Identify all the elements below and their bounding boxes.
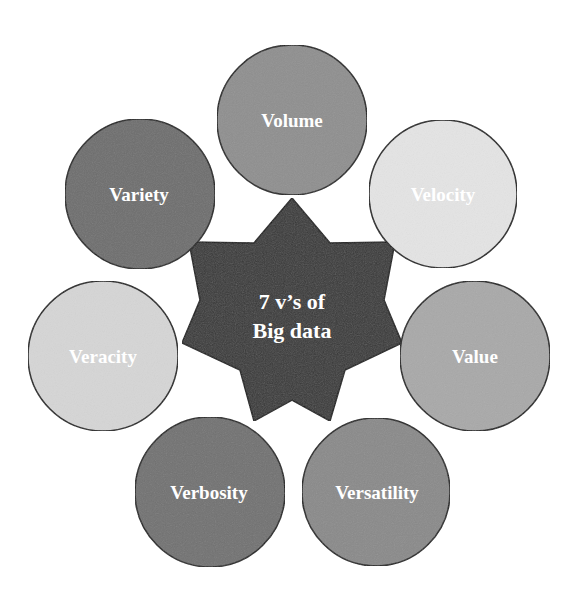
volume-label: Volume [261, 110, 323, 131]
center-star: 7 v’s of Big data [182, 198, 402, 421]
center-title-line2: Big data [253, 318, 332, 343]
veracity-label: Veracity [69, 346, 137, 367]
versatility-label: Versatility [335, 482, 419, 503]
big-data-diagram: 7 v’s of Big data Volume Velocity Value … [0, 0, 576, 593]
node-volume: Volume [217, 45, 367, 195]
node-veracity: Veracity [28, 281, 178, 431]
node-versatility: Versatility [302, 418, 450, 566]
node-velocity: Velocity [369, 120, 517, 268]
center-title-line1: 7 v’s of [259, 289, 326, 314]
value-label: Value [452, 346, 498, 367]
node-variety: Variety [65, 119, 215, 269]
verbosity-label: Verbosity [170, 482, 248, 503]
node-value: Value [400, 281, 550, 431]
node-verbosity: Verbosity [135, 417, 285, 567]
velocity-label: Velocity [411, 184, 476, 205]
variety-label: Variety [109, 184, 169, 205]
